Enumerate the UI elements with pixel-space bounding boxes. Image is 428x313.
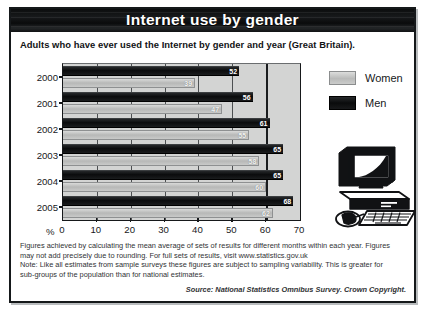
x-axis-tick-mark (164, 218, 165, 222)
figure-subtitle: Adults who have ever used the Internet b… (20, 39, 355, 50)
bar-women-2002: 55 (63, 130, 249, 140)
x-axis-tick-mark (265, 218, 266, 222)
bar-value-label: 68 (283, 198, 291, 205)
chart-legend: Women Men (329, 71, 415, 121)
bar-value-label: 65 (273, 146, 281, 153)
bar-women-2004: 60 (63, 182, 266, 192)
x-axis-tick-label: 40 (192, 224, 203, 235)
chart-row: 65582003 (63, 142, 300, 168)
y-axis-tick (59, 102, 63, 103)
bar-value-label: 39 (184, 79, 192, 86)
x-axis-tick-label: 50 (226, 224, 237, 235)
x-axis: 010203040506070 (62, 222, 301, 239)
figure-title: Internet use by gender (11, 11, 414, 29)
title-banner: Internet use by gender (11, 9, 414, 32)
y-axis-label-2004: 2004 (37, 176, 58, 187)
chart-row: 68622005 (63, 194, 300, 220)
legend-swatch-women (329, 71, 356, 85)
x-axis-tick-mark (197, 218, 198, 222)
desktop-computer-icon (323, 135, 419, 231)
x-axis-tick-label: 20 (124, 224, 135, 235)
bar-value-label: 55 (238, 131, 246, 138)
bar-men-2003: 65 (63, 144, 283, 154)
bar-chart: 5239200056472001615520026558200365602004… (20, 59, 312, 239)
x-axis-tick-mark (231, 218, 232, 222)
chart-row: 52392000 (63, 64, 300, 90)
footnote-line-1: Figures achieved by calculating the mean… (20, 241, 406, 251)
y-axis-tick (59, 76, 63, 77)
bar-men-2001: 56 (63, 92, 253, 102)
y-axis-tick (59, 180, 63, 181)
bar-men-2002: 61 (63, 118, 270, 128)
x-axis-tick-label: 0 (59, 224, 64, 235)
legend-label-women: Women (365, 72, 403, 84)
legend-item-women: Women (329, 71, 415, 85)
bar-value-label: 60 (255, 183, 263, 190)
legend-swatch-men (329, 96, 356, 110)
footnote-line-4: sub-groups of the population than for na… (20, 270, 406, 280)
y-axis-label-2002: 2002 (37, 124, 58, 135)
x-axis-tick-label: 10 (91, 224, 102, 235)
bar-men-2000: 52 (63, 66, 239, 76)
bar-value-label: 62 (262, 209, 270, 216)
bar-women-2000: 39 (63, 78, 195, 88)
bar-value-label: 52 (229, 68, 237, 75)
bar-men-2005: 68 (63, 196, 293, 206)
bar-women-2001: 47 (63, 104, 222, 114)
y-axis-tick (59, 154, 63, 155)
footnotes: Figures achieved by calculating the mean… (20, 241, 406, 279)
y-axis-label-2003: 2003 (37, 150, 58, 161)
chart-row: 56472001 (63, 90, 300, 116)
chart-row: 61552002 (63, 116, 300, 142)
bar-value-label: 56 (243, 94, 251, 101)
bar-men-2004: 65 (63, 170, 283, 180)
y-axis-label-2000: 2000 (37, 72, 58, 83)
source-attribution: Source: National Statistics Omnibus Surv… (186, 285, 406, 294)
bar-value-label: 58 (249, 157, 257, 164)
legend-item-men: Men (329, 96, 415, 110)
percent-symbol: % (46, 226, 55, 237)
y-axis-label-2005: 2005 (37, 202, 58, 213)
x-axis-tick-mark (130, 218, 131, 222)
figure-frame: Internet use by gender Adults who have e… (9, 7, 416, 303)
x-axis-tick-label: 70 (294, 224, 305, 235)
y-axis-label-2001: 2001 (37, 98, 58, 109)
x-axis-tick-mark (96, 218, 97, 222)
footnote-line-3: Note: Like all estimates from sample sur… (20, 260, 406, 270)
bar-women-2005: 62 (63, 208, 273, 218)
bar-value-label: 65 (273, 172, 281, 179)
bar-women-2003: 58 (63, 156, 259, 166)
plot-area: 5239200056472001615520026558200365602004… (62, 63, 301, 221)
y-axis-tick (59, 128, 63, 129)
bar-value-label: 61 (260, 120, 268, 127)
legend-label-men: Men (365, 97, 386, 109)
x-axis-tick-label: 30 (158, 224, 169, 235)
chart-row: 65602004 (63, 168, 300, 194)
y-axis-tick (59, 206, 63, 207)
x-axis-tick-label: 60 (260, 224, 271, 235)
bar-value-label: 47 (211, 105, 219, 112)
footnote-line-2: may not add precisely due to rounding. F… (20, 251, 406, 261)
